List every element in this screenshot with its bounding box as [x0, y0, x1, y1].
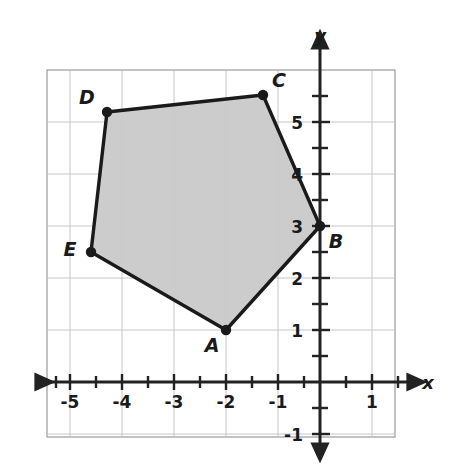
- vertex-point-d: [102, 107, 112, 117]
- x-tick-label-neg3: -3: [165, 392, 184, 412]
- vertex-point-a: [221, 325, 231, 335]
- y-tick-label-2: 2: [291, 269, 303, 289]
- vertex-label-b: B: [329, 230, 343, 252]
- y-tick-label-5: 5: [291, 113, 303, 133]
- vertex-label-d: D: [79, 86, 95, 108]
- x-axis-label: x: [421, 372, 435, 393]
- y-tick-label-3: 3: [291, 217, 303, 237]
- x-tick-label-pos1: 1: [366, 392, 378, 412]
- x-tick-label-neg2: -2: [217, 392, 236, 412]
- y-tick-label-4: 4: [291, 165, 303, 185]
- vertex-point-b: [315, 221, 325, 231]
- x-tick-label-neg5: -5: [61, 392, 80, 412]
- vertex-label-c: C: [272, 69, 286, 91]
- vertex-point-e: [86, 247, 96, 257]
- x-tick-label-neg4: -4: [113, 392, 132, 412]
- y-tick-label-neg1: -1: [284, 425, 303, 445]
- vertex-label-a: A: [203, 334, 220, 356]
- pentagon-plot-svg: -5 -4 -3 -2 -1 1 5 4 3 2 1 -1 x y A B C …: [0, 0, 452, 472]
- coordinate-plane-figure: -5 -4 -3 -2 -1 1 5 4 3 2 1 -1 x y A B C …: [0, 0, 452, 472]
- x-tick-label-neg1: -1: [269, 392, 288, 412]
- y-tick-label-1: 1: [291, 321, 303, 341]
- y-axis-label: y: [314, 25, 327, 46]
- vertex-label-e: E: [64, 238, 77, 260]
- vertex-point-c: [258, 90, 268, 100]
